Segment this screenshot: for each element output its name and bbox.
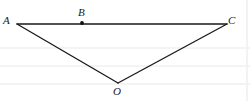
vertex-label-o: O <box>113 86 121 97</box>
vertex-label-b: B <box>78 7 85 18</box>
ruled-background-lines <box>0 0 250 101</box>
point-markers <box>80 21 84 25</box>
segment-OC <box>118 24 227 83</box>
segment-AO <box>17 24 118 83</box>
geometry-figure: A B C O <box>0 0 250 101</box>
vertex-label-a: A <box>3 15 10 26</box>
vertex-label-c: C <box>228 15 235 26</box>
point-marker-B <box>80 21 84 25</box>
triangle-diagram-canvas <box>0 0 250 101</box>
triangle-segments <box>17 24 227 83</box>
